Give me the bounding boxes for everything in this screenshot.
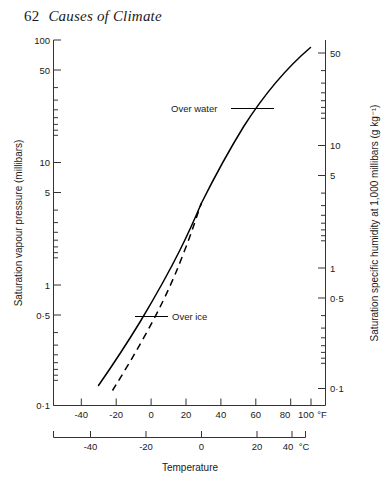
fahrenheit-axis-ticks: [81, 399, 311, 406]
saturation-vapour-pressure-chart: 100 50 10 5 1 0·5 0·1 Saturation vapour …: [0, 0, 388, 493]
right-tick-label: 0·5: [330, 293, 344, 304]
right-tick-label: 5: [330, 170, 335, 181]
fahrenheit-unit-label: °F: [317, 409, 327, 420]
annotation-over-water-label: Over water: [171, 103, 217, 114]
fahrenheit-tick-label: 80: [280, 409, 291, 420]
left-tick-label: 0·5: [36, 310, 50, 321]
left-tick-label: 10: [39, 157, 50, 168]
celsius-tick-label: -40: [84, 441, 98, 452]
right-axis-title: Saturation specific humidity at 1,000 mi…: [369, 105, 380, 342]
fahrenheit-axis-tick-labels: -40 -20 0 20 40 60 80 100 °F: [74, 409, 327, 420]
right-tick-label: 1: [330, 263, 335, 274]
left-tick-label: 5: [45, 187, 50, 198]
left-axis-tick-labels: 100 50 10 5 1 0·5 0·1: [34, 35, 50, 412]
fahrenheit-tick-label: 100: [298, 409, 314, 420]
curve-over-ice: [113, 203, 202, 391]
right-axis-ticks: [318, 53, 326, 389]
fahrenheit-tick-label: -40: [74, 409, 88, 420]
right-tick-label: 50: [330, 48, 341, 59]
left-axis-title: Saturation vapour pressure (millibars): [13, 140, 24, 307]
celsius-tick-label: 0: [199, 441, 204, 452]
celsius-tick-label: 40: [283, 441, 294, 452]
fahrenheit-tick-label: 40: [216, 409, 227, 420]
left-axis-ticks: [54, 40, 62, 406]
fahrenheit-tick-label: 20: [181, 409, 192, 420]
celsius-axis-tick-labels: -40 -20 0 20 40 °C: [84, 441, 310, 452]
celsius-tick-label: -20: [139, 441, 153, 452]
right-tick-label: 10: [330, 140, 341, 151]
fahrenheit-tick-label: 60: [251, 409, 262, 420]
curve-over-water: [99, 48, 311, 386]
right-tick-label: 0·1: [330, 383, 344, 394]
chart-svg: 100 50 10 5 1 0·5 0·1 Saturation vapour …: [0, 0, 388, 493]
celsius-unit-label: °C: [299, 441, 310, 452]
fahrenheit-tick-label: 0: [148, 409, 153, 420]
annotation-over-ice-label: Over ice: [172, 311, 207, 322]
celsius-tick-label: 20: [252, 441, 263, 452]
left-tick-label: 100: [34, 35, 50, 46]
fahrenheit-tick-label: -20: [109, 409, 123, 420]
plot-frame: [54, 40, 326, 406]
left-tick-label: 0·1: [36, 400, 50, 411]
celsius-axis: [54, 431, 306, 438]
left-tick-label: 50: [39, 65, 50, 76]
left-tick-label: 1: [45, 280, 50, 291]
x-axis-title: Temperature: [162, 462, 219, 473]
right-axis-tick-labels: 50 10 5 1 0·5 0·1: [330, 48, 344, 395]
